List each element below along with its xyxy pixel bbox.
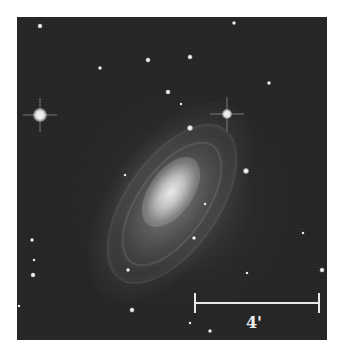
star bbox=[38, 24, 43, 29]
star bbox=[208, 329, 212, 333]
star bbox=[232, 21, 236, 25]
star bbox=[192, 236, 196, 240]
star bbox=[243, 168, 249, 174]
star bbox=[246, 272, 249, 275]
star bbox=[18, 305, 21, 308]
star bbox=[189, 322, 192, 325]
star bbox=[130, 308, 135, 313]
star bbox=[188, 55, 193, 60]
star bbox=[126, 268, 130, 272]
star bbox=[320, 268, 325, 273]
star bbox=[98, 66, 102, 70]
star bbox=[180, 103, 183, 106]
scale-bar-line bbox=[194, 302, 320, 304]
star bbox=[146, 58, 151, 63]
star bbox=[30, 238, 34, 242]
star bbox=[302, 232, 305, 235]
star bbox=[124, 174, 127, 177]
galaxy-image: 4' bbox=[17, 17, 327, 340]
star bbox=[204, 203, 207, 206]
scale-bar bbox=[194, 293, 320, 313]
star bbox=[166, 90, 171, 95]
bright-star bbox=[33, 108, 47, 122]
scale-bar-label: 4' bbox=[241, 313, 267, 332]
star bbox=[267, 81, 271, 85]
bright-star bbox=[222, 109, 232, 119]
star bbox=[187, 125, 193, 131]
scale-bar-right-tick bbox=[318, 293, 320, 313]
star bbox=[31, 273, 36, 278]
star bbox=[33, 259, 36, 262]
